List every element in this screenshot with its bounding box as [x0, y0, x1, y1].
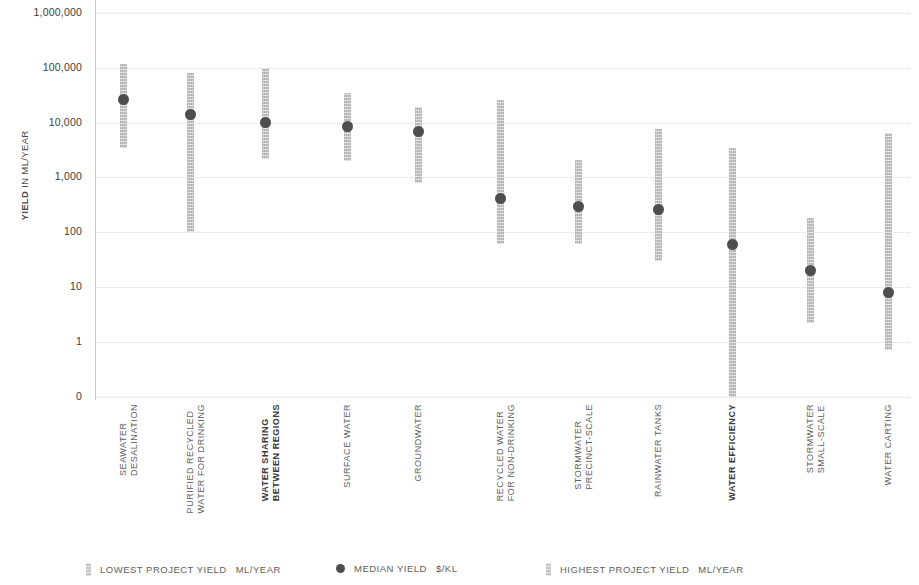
x-axis-category-label: PURIFIED RECYCLEDWATER FOR DRINKING	[185, 404, 207, 513]
median-yield-dot	[260, 117, 271, 128]
x-axis-category-label: WATER EFFICIENCY	[727, 404, 738, 501]
y-tick-label: 0	[0, 390, 82, 402]
y-tick-label: 1,000	[0, 170, 82, 182]
legend-unit: ML/YEAR	[236, 564, 281, 575]
x-axis-category-label: WATER SHARINGBETWEEN REGIONS	[260, 404, 282, 501]
category-label-line1: SURFACE WATER	[342, 404, 352, 488]
gridline	[95, 342, 910, 343]
yield-range-bar	[729, 148, 736, 397]
x-axis-category-label: STORMWATERSMALL-SCALE	[805, 404, 827, 473]
category-label-line1: STORMWATER	[573, 420, 583, 489]
y-tick-label: 10	[0, 280, 82, 292]
gridline	[95, 13, 910, 14]
legend-label: MEDIAN YIELD	[354, 563, 427, 574]
x-axis-category-label: SURFACE WATER	[342, 404, 353, 488]
yield-range-bar	[655, 129, 662, 260]
yield-range-bar	[885, 133, 892, 350]
legend-bar-icon	[86, 563, 91, 576]
median-yield-dot	[495, 193, 506, 204]
category-label-line2: PRECINCT-SCALE	[584, 404, 595, 490]
category-label-line2: SMALL-SCALE	[816, 404, 827, 473]
yield-range-bar	[120, 64, 127, 147]
gridline	[95, 397, 910, 398]
median-yield-dot	[883, 287, 894, 298]
gridline	[95, 68, 910, 69]
chart-legend: LOWEST PROJECT YIELDML/YEARMEDIAN YIELD$…	[86, 563, 886, 583]
legend-dot-icon	[336, 564, 345, 573]
category-label-line2: WATER FOR DRINKING	[196, 404, 207, 513]
category-label-line1: RECYCLED WATER	[495, 411, 505, 502]
yield-range-bar	[262, 68, 269, 159]
legend-label: LOWEST PROJECT YIELD	[100, 564, 227, 575]
x-axis-category-label: RECYCLED WATERFOR NON-DRINKING	[495, 404, 517, 501]
y-tick-label: 1,000,000	[0, 6, 82, 18]
y-tick-label: 100	[0, 225, 82, 237]
category-label-line1: WATER SHARING	[260, 418, 270, 501]
legend-label: HIGHEST PROJECT YIELD	[560, 564, 689, 575]
category-label-line2: DESALINATION	[129, 404, 140, 476]
plot-area	[95, 0, 910, 400]
legend-bar-icon	[546, 563, 551, 576]
y-axis-line	[95, 0, 96, 400]
category-label-line1: WATER CARTING	[883, 404, 893, 485]
category-label-line2: BETWEEN REGIONS	[271, 404, 282, 501]
x-axis-category-labels: SEAWATERDESALINATIONPURIFIED RECYCLEDWAT…	[95, 404, 910, 549]
category-label-line1: SEAWATER	[118, 422, 128, 476]
legend-unit: $/KL	[436, 563, 458, 574]
legend-item: HIGHEST PROJECT YIELDML/YEAR	[546, 563, 744, 576]
legend-item: LOWEST PROJECT YIELDML/YEAR	[86, 563, 281, 576]
median-yield-dot	[653, 204, 664, 215]
y-tick-label: 10,000	[0, 116, 82, 128]
median-yield-dot	[573, 201, 584, 212]
category-label-line1: GROUNDWATER	[413, 404, 423, 482]
legend-unit: ML/YEAR	[698, 564, 743, 575]
category-label-line2: FOR NON-DRINKING	[506, 404, 517, 501]
gridline	[95, 287, 910, 288]
median-yield-dot	[118, 94, 129, 105]
yield-range-bar	[497, 100, 504, 244]
y-tick-label: 1	[0, 335, 82, 347]
category-label-line1: WATER EFFICIENCY	[727, 404, 737, 501]
median-yield-dot	[413, 126, 424, 137]
legend-item: MEDIAN YIELD$/KL	[336, 563, 457, 574]
x-axis-category-label: RAINWATER TANKS	[653, 404, 664, 497]
median-yield-dot	[727, 239, 738, 250]
x-axis-category-label: GROUNDWATER	[413, 404, 424, 482]
yield-range-chart: YIELD IN ML/YEAR 1,000,000100,00010,0001…	[0, 0, 919, 585]
category-label-line1: PURIFIED RECYCLED	[185, 411, 195, 514]
y-axis-tick-labels: 1,000,000100,00010,0001,0001001010	[0, 0, 82, 400]
yield-range-bar	[187, 73, 194, 232]
x-axis-category-label: STORMWATERPRECINCT-SCALE	[573, 404, 595, 490]
category-label-line1: RAINWATER TANKS	[653, 404, 663, 497]
median-yield-dot	[342, 121, 353, 132]
x-axis-category-label: SEAWATERDESALINATION	[118, 404, 140, 476]
median-yield-dot	[805, 265, 816, 276]
median-yield-dot	[185, 109, 196, 120]
y-tick-label: 100,000	[0, 61, 82, 73]
category-label-line1: STORMWATER	[805, 404, 815, 473]
yield-range-bar	[415, 107, 422, 182]
x-axis-category-label: WATER CARTING	[883, 404, 894, 485]
